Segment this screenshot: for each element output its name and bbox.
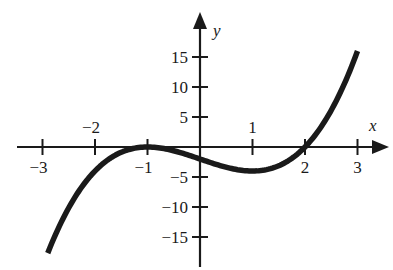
y-tick-label: 15	[171, 48, 188, 67]
x-axis-label: x	[368, 116, 377, 135]
x-axis-arrow-icon	[372, 140, 389, 154]
x-tick-label: −1	[134, 158, 152, 177]
y-axis-arrow-icon	[193, 12, 207, 29]
y-tick-label: −5	[170, 168, 188, 187]
cubic-function-graph: −3−2−112315105−5−10−15 x y	[0, 0, 393, 270]
y-tick-label: 10	[171, 78, 188, 97]
x-tick-label: 3	[353, 158, 362, 177]
y-tick-label: −15	[161, 228, 188, 247]
y-tick-label: −10	[161, 198, 188, 217]
y-tick-label: 5	[180, 108, 189, 127]
axes	[17, 12, 389, 267]
x-tick-label: −3	[29, 158, 47, 177]
x-tick-label: −2	[82, 118, 100, 137]
y-axis-label: y	[211, 21, 221, 40]
x-tick-label: 1	[248, 118, 257, 137]
x-tick-label: 2	[301, 158, 310, 177]
